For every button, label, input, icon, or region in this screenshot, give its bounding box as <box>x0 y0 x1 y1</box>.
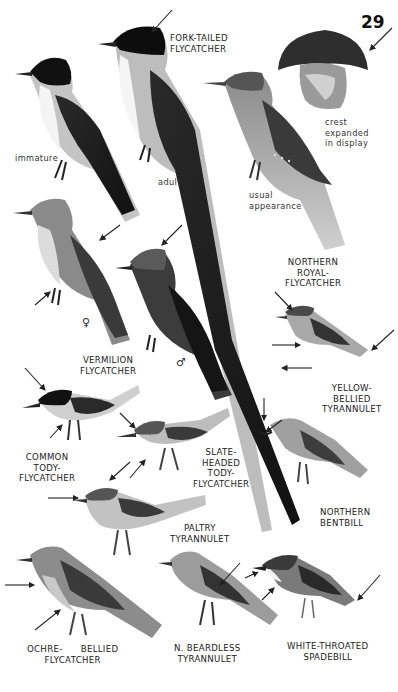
page-number: 29 <box>361 12 385 32</box>
female-symbol: ♀ <box>82 316 90 329</box>
note-crest-expanded: crest expanded in display <box>325 117 369 149</box>
field-guide-plate: 29 FORK-TAILED FLYCATCHER immature adult… <box>0 0 398 692</box>
bird-ochre-bellied-flycatcher <box>16 547 162 638</box>
bird-paltry-tyrannulet <box>73 488 206 555</box>
label-northern-bentbill: NORTHERN BENTBILL <box>320 507 370 528</box>
label-fork-tailed-flycatcher: FORK-TAILED FLYCATCHER <box>170 33 228 54</box>
male-symbol: ♂ <box>176 356 186 369</box>
label-n-beardless-tyrannulet: N. BEARDLESS TYRANNULET <box>174 643 240 664</box>
bird-royal-flycatcher-crest <box>278 30 368 109</box>
bird-common-tody-flycatcher <box>22 385 140 440</box>
bird-n-beardless-tyrannulet <box>158 552 278 625</box>
label-paltry-tyrannulet: PALTRY TYRANNULET <box>170 523 230 544</box>
label-yellow-bellied-tyrannulet: YELLOW- BELLIED TYRANNULET <box>322 383 382 415</box>
label-white-throated-spadebill: WHITE-THROATED SPADEBILL <box>287 641 369 662</box>
label-vermilion-flycatcher: VERMILION FLYCATCHER <box>80 355 136 376</box>
bird-vermilion-female <box>13 199 130 345</box>
label-slate-headed-tody-flycatcher: SLATE- HEADED TODY- FLYCATCHER <box>193 447 249 489</box>
label-common-tody-flycatcher: COMMON TODY- FLYCATCHER <box>19 452 75 484</box>
note-usual-appearance: usual appearance <box>249 190 302 211</box>
label-northern-royal-flycatcher: NORTHERN ROYAL- FLYCATCHER <box>285 257 341 289</box>
note-adult: adult <box>158 177 181 188</box>
label-ochre-bellied-flycatcher: OCHRE- BELLIED FLYCATCHER <box>27 644 118 665</box>
note-immature: immature <box>15 153 58 164</box>
bird-illustrations <box>0 0 398 692</box>
bird-yellow-bellied-tyrannulet <box>275 306 368 357</box>
